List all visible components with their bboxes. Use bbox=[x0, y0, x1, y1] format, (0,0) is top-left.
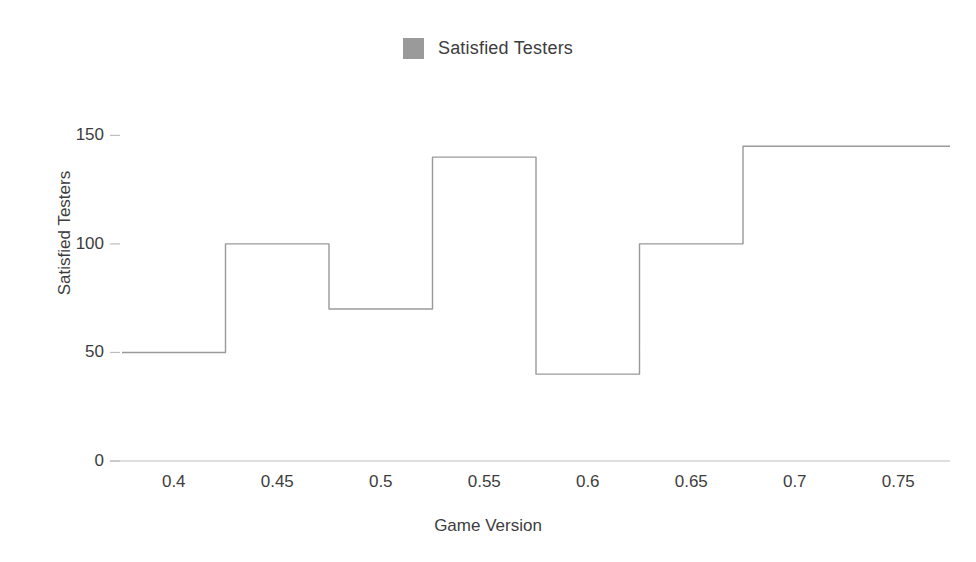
y-axis-title: Satisfied Testers bbox=[55, 113, 75, 353]
x-axis-title: Game Version bbox=[0, 516, 976, 536]
plot-area bbox=[0, 0, 976, 562]
axis-lines bbox=[110, 135, 950, 461]
series-step-line bbox=[122, 146, 950, 374]
chart-container: Satisfied Testers 050100150 0.40.450.50.… bbox=[0, 0, 976, 562]
series-layer bbox=[122, 146, 950, 374]
